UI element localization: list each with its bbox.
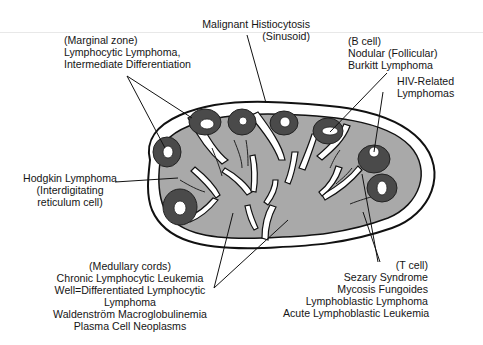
label-t-cell: (T cell) Sezary Syndrome Mycosis Fungoid… bbox=[283, 259, 428, 319]
label-marginal-zone: (Marginal zone) Lymphocytic Lymphoma, In… bbox=[64, 34, 191, 70]
label-hodgkin: Hodgkin Lymphoma (Interdigitating reticu… bbox=[20, 172, 120, 208]
label-b-cell: (B cell) Nodular (Follicular) Burkitt Ly… bbox=[348, 35, 437, 71]
label-medullary-cords: (Medullary cords) Chronic Lymphocytic Le… bbox=[50, 260, 210, 332]
label-hiv: HIV-Related Lymphomas bbox=[397, 75, 454, 99]
label-sinusoid: Malignant Histiocytosis (Sinusoid) bbox=[195, 18, 310, 42]
